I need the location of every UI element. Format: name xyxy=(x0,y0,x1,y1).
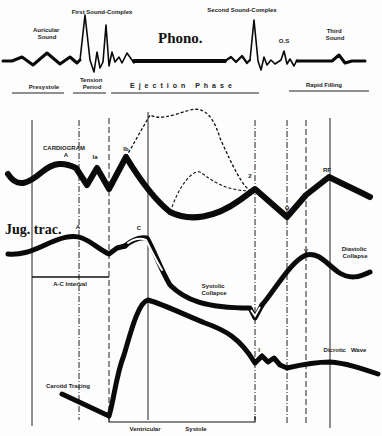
ventricular-systole-bracket xyxy=(109,416,255,422)
jugular-point-c: C xyxy=(137,225,142,231)
ventricular-label: Ventricular xyxy=(129,426,161,432)
ac-interval-label: A-C Interval xyxy=(53,281,87,287)
jugular-point-a: A xyxy=(76,224,81,230)
cardiogram-point-a: A xyxy=(64,152,69,158)
second-sound-complex-label: Second Sound-Complex xyxy=(207,7,277,13)
opening-snap-label: O.S xyxy=(279,38,289,44)
rapid-filling-label: Rapid Filling xyxy=(306,82,342,88)
tension-period-label: Tension Period xyxy=(80,77,104,90)
diastolic-collapse-label: Diastolic Collapse xyxy=(342,246,369,259)
diagram-canvas: Phono. Auricular Sound First Sound-Compl… xyxy=(0,0,382,436)
systolic-collapse-label: Systolic Collapse xyxy=(201,283,227,296)
auricular-sound-label: Auricular Sound xyxy=(33,27,61,40)
presystole-label: Presystole xyxy=(29,84,60,90)
first-sound-complex-label: First Sound-Complex xyxy=(72,9,133,15)
carotid-title: Carotid Tracing xyxy=(46,383,90,389)
cardiogram-point-ib: Ib xyxy=(123,146,129,152)
cardiogram-point-2: 2 xyxy=(248,173,252,179)
cardiogram-point-rf: RF xyxy=(323,167,331,173)
carotid-point-i: I xyxy=(258,347,260,353)
cardiac-cycle-diagram: Phono. Auricular Sound First Sound-Compl… xyxy=(0,0,382,436)
cardiogram-title: CARDIOGRAM xyxy=(43,145,85,151)
systole-label: Systole xyxy=(185,426,207,432)
cardiogram-point-o: O xyxy=(285,205,290,211)
phono-title: Phono. xyxy=(158,30,203,46)
jugular-title: Jug. trac. xyxy=(5,222,61,237)
third-sound-label: Third Sound xyxy=(326,28,345,41)
cardiogram-trace xyxy=(8,109,370,217)
ejection-phase-label: Ejection Phase xyxy=(130,82,236,90)
phase-bar: Presystole Tension Period Ejection Phase… xyxy=(12,77,369,93)
dicrotic-wave-label: Dicrotic Wave xyxy=(324,347,367,353)
cardiogram-point-ia: Ia xyxy=(92,154,98,160)
